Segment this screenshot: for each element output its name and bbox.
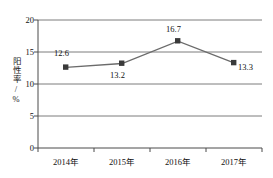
data-label-2017: 13.3 (238, 62, 253, 72)
gridlines (38, 20, 262, 116)
data-label-2016: 16.7 (166, 24, 181, 34)
plot-area (0, 0, 273, 178)
x-tick-label-2017: 2017年 (221, 155, 247, 167)
x-axis-ticks (38, 148, 262, 152)
data-label-2015: 13.2 (110, 70, 125, 80)
x-tick-label-2016: 2016年 (165, 155, 191, 167)
line-chart: 阳性率/% 0 5 10 15 20 (0, 0, 273, 178)
y-axis-ticks (34, 20, 38, 148)
x-tick-label-2014: 2014年 (53, 155, 79, 167)
series-line-positive-rate (66, 41, 234, 67)
data-label-2014: 12.6 (54, 48, 69, 58)
x-tick-label-2015: 2015年 (109, 155, 135, 167)
